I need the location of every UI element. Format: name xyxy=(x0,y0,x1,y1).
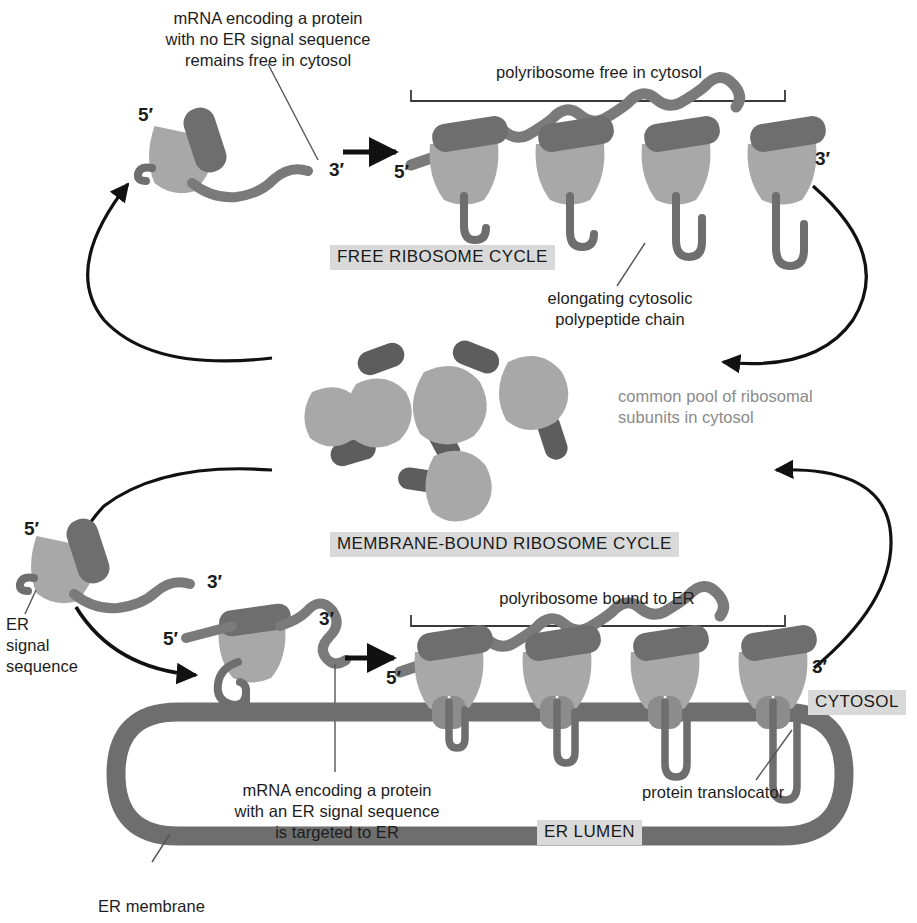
figure-canvas: 5′ 3′ xyxy=(0,0,917,923)
leader-line-elongating-chain xyxy=(617,243,645,286)
label-mrna-no-signal: mRNA encoding a protein with no ER signa… xyxy=(132,8,404,71)
free-polyribosome xyxy=(411,77,828,266)
free-single-ribosome xyxy=(138,104,308,199)
label-mrna-with-signal: mRNA encoding a protein with an ER signa… xyxy=(182,780,492,843)
label-protein-translocator: protein translocator xyxy=(642,782,872,803)
bound-single-ribosome xyxy=(20,515,190,609)
label-polyribosome-free: polyribosome free in cytosol xyxy=(440,62,758,83)
label-membrane-bound-cycle: MEMBRANE-BOUND RIBOSOME CYCLE xyxy=(330,532,679,557)
svg-text:5′: 5′ xyxy=(138,104,154,125)
svg-text:3′: 3′ xyxy=(812,656,828,677)
label-polyribosome-bound: polyribosome bound to ER xyxy=(452,588,742,609)
bracket-polyribosome-free xyxy=(411,90,785,101)
svg-text:5′: 5′ xyxy=(386,667,402,688)
arrow-free-recycle-right xyxy=(723,186,866,364)
bound-polyribosome xyxy=(400,586,819,800)
label-common-pool: common pool of ribosomal subunits in cyt… xyxy=(618,386,908,428)
leader-line-mrna-no-signal xyxy=(268,64,318,160)
svg-text:3′: 3′ xyxy=(815,148,831,169)
svg-text:5′: 5′ xyxy=(163,628,179,649)
arrow-free-recycle-left xyxy=(88,184,272,361)
label-er-membrane: ER membrane xyxy=(98,896,298,917)
svg-text:3′: 3′ xyxy=(319,608,335,629)
svg-text:5′: 5′ xyxy=(24,518,40,539)
svg-text:3′: 3′ xyxy=(329,159,345,180)
label-free-ribosome-cycle: FREE RIBOSOME CYCLE xyxy=(330,245,555,270)
label-er-lumen: ER LUMEN xyxy=(537,820,642,845)
ribosomal-subunit-pool xyxy=(304,337,570,522)
svg-text:5′: 5′ xyxy=(394,161,410,182)
svg-text:3′: 3′ xyxy=(207,571,223,592)
label-cytosol: CYTOSOL xyxy=(808,690,906,715)
label-er-signal-sequence: ER signal sequence xyxy=(6,614,126,677)
label-elongating-chain: elongating cytosolic polypeptide chain xyxy=(510,288,730,330)
